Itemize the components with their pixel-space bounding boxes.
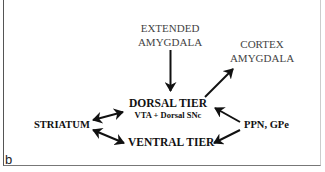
dorsal-tier-title: DORSAL TIER <box>122 98 214 110</box>
dorsal-tier-subtitle: VTA + Dorsal SNc <box>122 111 214 120</box>
arrow-dorsal-to-cortex <box>205 69 233 97</box>
arrow-striatum-dorsal <box>93 112 123 120</box>
extended-amygdala-line1: EXTENDED <box>130 23 210 34</box>
node-dorsal-tier: DORSAL TIER VTA + Dorsal SNc <box>122 98 214 119</box>
node-ventral-tier: VENTRAL TIER <box>128 137 214 149</box>
cortex-amygdala-line2: AMYGDALA <box>222 53 302 64</box>
node-ppn-gpe: PPN, GPe <box>244 120 289 131</box>
arrow-ppn-to-ventral <box>214 130 240 143</box>
node-cortex-amygdala: CORTEX AMYGDALA <box>222 39 302 64</box>
extended-amygdala-line2: AMYGDALA <box>130 37 210 48</box>
node-striatum: STRIATUM <box>34 120 90 131</box>
node-extended-amygdala: EXTENDED AMYGDALA <box>130 23 210 48</box>
panel-label: b <box>5 153 12 166</box>
arrow-ppn-to-dorsal <box>215 108 240 122</box>
arrow-striatum-ventral <box>93 130 124 143</box>
cortex-amygdala-line1: CORTEX <box>222 39 302 50</box>
